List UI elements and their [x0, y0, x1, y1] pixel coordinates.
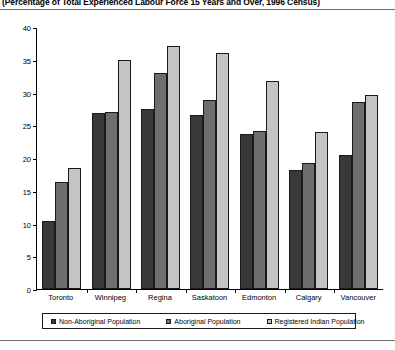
bar [240, 134, 253, 289]
y-tick-label: 20 [23, 155, 31, 164]
y-tick-label: 35 [23, 56, 31, 65]
bar-groups [37, 28, 383, 289]
x-axis-label: Regina [135, 292, 185, 306]
y-tick-mark [33, 159, 37, 160]
x-axis-labels: TorontoWinnipegReginaSaskatoonEdmontonCa… [36, 292, 383, 306]
y-tick-mark [33, 61, 37, 62]
legend-label: Aboriginal Population [174, 318, 240, 325]
y-tick-mark [33, 28, 37, 29]
bar [339, 155, 352, 289]
bar [266, 81, 279, 289]
y-tick-label: 15 [23, 187, 31, 196]
legend-swatch-icon [166, 319, 171, 324]
y-tick-label: 0 [27, 286, 31, 295]
bar-group [334, 28, 383, 289]
bar [154, 73, 167, 289]
bar-group [37, 28, 86, 289]
bar-group [185, 28, 234, 289]
y-tick-mark [33, 192, 37, 193]
legend-swatch-icon [267, 319, 272, 324]
bar [289, 170, 302, 289]
bar-group [235, 28, 284, 289]
bar [118, 60, 131, 289]
x-axis-label: Edmonton [234, 292, 284, 306]
bar [315, 132, 328, 289]
x-axis-label: Vancouver [333, 292, 383, 306]
legend-item[interactable]: Aboriginal Population [166, 318, 240, 325]
bar [365, 95, 378, 289]
bar [190, 115, 203, 289]
bar-group [136, 28, 185, 289]
x-axis-label: Toronto [36, 292, 86, 306]
legend-label: Non-Aboriginal Population [59, 318, 140, 325]
bar [68, 168, 81, 289]
footer-divider [0, 340, 395, 341]
y-tick-label: 10 [23, 220, 31, 229]
bar [216, 53, 229, 289]
bar [167, 46, 180, 289]
y-tick-label: 5 [27, 253, 31, 262]
y-tick-label: 30 [23, 89, 31, 98]
y-tick-mark [33, 290, 37, 291]
y-tick-mark [33, 257, 37, 258]
page-title: (Percentage of Total Experienced Labour … [2, 0, 394, 7]
bar-group [284, 28, 333, 289]
chart-page: (Percentage of Total Experienced Labour … [0, 0, 395, 350]
bar-group [86, 28, 135, 289]
plot-area: 0510152025303540 [36, 28, 383, 290]
legend-label: Registered Indian Population [275, 318, 365, 325]
bar [42, 221, 55, 289]
x-axis-label: Winnipeg [86, 292, 136, 306]
y-tick-label: 25 [23, 122, 31, 131]
y-tick-label: 40 [23, 24, 31, 33]
x-axis-label: Calgary [284, 292, 334, 306]
bar [141, 109, 154, 289]
legend-item[interactable]: Non-Aboriginal Population [51, 318, 140, 325]
x-axis-label: Saskatoon [185, 292, 235, 306]
bar [55, 182, 68, 289]
bar [302, 163, 315, 289]
y-tick-mark [33, 225, 37, 226]
bar [203, 100, 216, 289]
legend-item[interactable]: Registered Indian Population [267, 318, 365, 325]
y-tick-mark [33, 94, 37, 95]
title-divider [0, 9, 395, 10]
bar [92, 113, 105, 289]
bar [352, 102, 365, 289]
bar [105, 112, 118, 289]
legend-swatch-icon [51, 319, 56, 324]
bar [253, 131, 266, 289]
chart-legend: Non-Aboriginal PopulationAboriginal Popu… [42, 313, 356, 329]
y-tick-mark [33, 126, 37, 127]
